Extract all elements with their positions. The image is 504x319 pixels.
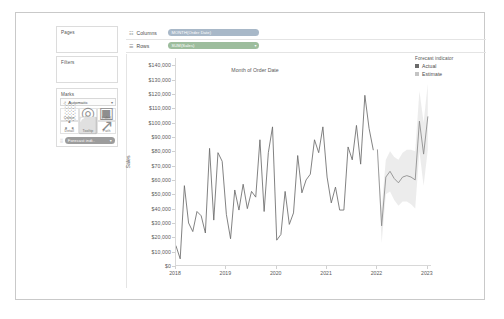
y-tick-label: $20,000 [152, 234, 171, 240]
marks-path-button[interactable]: ↗ Path [97, 121, 116, 134]
marks-detail-button[interactable]: ∴ Detail [60, 121, 79, 134]
x-tick-mark [276, 266, 277, 269]
plot-area[interactable] [175, 58, 431, 266]
legend-swatch-actual [415, 64, 419, 68]
colour-encoding-icon: ░ [60, 138, 63, 143]
legend-item-estimate[interactable]: Estimate [415, 71, 481, 77]
rows-pill-label: SUM(Sales) [171, 43, 194, 48]
worksheet-frame: Pages Filters Marks ↗ Automatic ▾ ░ Colo… [15, 12, 485, 300]
rows-shelf-label: Rows [136, 43, 168, 49]
colour-icon: ░ [64, 109, 75, 115]
y-tick-label: $100,000 [149, 120, 171, 126]
shelves-area: ☷ Columns MONTH(Order Date) ☰ Rows SUM(S… [126, 26, 486, 54]
columns-shelf-label: Columns [136, 30, 168, 36]
marks-tooltip-button[interactable]: ⬜ Tooltip [79, 121, 98, 134]
legend-item-actual[interactable]: Actual [415, 63, 481, 69]
columns-pill-label: MONTH(Order Date) [171, 30, 211, 35]
rows-pill-sum-sales[interactable]: SUM(Sales) ▾ [168, 42, 259, 49]
y-tick-label: $50,000 [152, 191, 171, 197]
top-cutoff-strip [0, 0, 504, 11]
columns-pill-month-order-date[interactable]: MONTH(Order Date) [168, 29, 259, 36]
legend-label-actual: Actual [422, 63, 437, 69]
x-tick-mark [427, 266, 428, 269]
marks-card-title: Marks [57, 89, 117, 97]
rows-pill-caret-icon[interactable]: ▾ [252, 43, 256, 48]
actual-line [176, 95, 373, 259]
x-tick-label: 2022 [371, 270, 383, 276]
filters-shelf-title: Filters [57, 57, 117, 65]
worksheet-sidebar: Pages Filters Marks ↗ Automatic ▾ ░ Colo… [56, 26, 118, 288]
path-icon: ↗ [100, 122, 113, 128]
marks-path-label: Path [103, 129, 111, 133]
marks-pill-label: Forecast indi.. [68, 138, 95, 143]
y-axis-title: Sales [125, 156, 131, 169]
x-tick-mark [225, 266, 226, 269]
y-tick-label: $130,000 [149, 77, 171, 83]
x-tick-mark [175, 266, 176, 269]
x-tick-mark [376, 266, 377, 269]
marks-colour-encoding-row: ░ Forecast indi.. ▾ [60, 136, 116, 144]
y-axis: $0$10,000$20,000$30,000$40,000$50,000$60… [127, 54, 175, 270]
detail-icon: ∴ [64, 122, 74, 128]
y-tick-label: $90,000 [152, 134, 171, 140]
y-tick-label: $40,000 [152, 206, 171, 212]
filters-shelf[interactable]: Filters [56, 56, 118, 83]
rows-icon: ☰ [129, 43, 133, 49]
x-tick-label: 2021 [320, 270, 332, 276]
y-tick-label: $0 [165, 263, 171, 269]
x-tick-label: 2020 [270, 270, 282, 276]
x-tick-label: 2018 [169, 270, 181, 276]
legend-title: Forecast indicator [415, 56, 481, 61]
line-chart-svg [176, 58, 432, 266]
pages-shelf-title: Pages [57, 27, 117, 35]
x-tick-label: 2023 [421, 270, 433, 276]
y-tick-label: $80,000 [152, 148, 171, 154]
marks-forecast-indicator-pill[interactable]: Forecast indi.. ▾ [65, 137, 115, 144]
forecast-confidence-band [377, 84, 427, 243]
pages-shelf[interactable]: Pages [56, 26, 118, 53]
x-tick-mark [326, 266, 327, 269]
y-tick-label: $110,000 [149, 105, 171, 111]
marks-button-grid: ░ Colour ◎ Size ▣ Label ∴ Detail [60, 108, 116, 134]
legend-swatch-estimate [415, 72, 419, 76]
rows-shelf[interactable]: ☰ Rows SUM(Sales) ▾ [126, 39, 486, 53]
y-tick-label: $10,000 [152, 249, 171, 255]
columns-shelf[interactable]: ☷ Columns MONTH(Order Date) [126, 26, 486, 40]
marks-tooltip-label: Tooltip [83, 129, 94, 133]
columns-icon: ☷ [129, 30, 133, 36]
y-tick-label: $140,000 [149, 62, 171, 68]
chart-pane: $0$10,000$20,000$30,000$40,000$50,000$60… [126, 54, 486, 288]
y-tick-label: $70,000 [152, 163, 171, 169]
y-tick-label: $30,000 [152, 220, 171, 226]
x-axis: 201820192020202120222023 [175, 266, 431, 288]
marks-pill-caret-icon[interactable]: ▾ [108, 138, 112, 143]
size-icon: ◎ [81, 109, 95, 115]
x-axis-title: Month of Order Date [231, 67, 278, 73]
y-tick-label: $60,000 [152, 177, 171, 183]
marks-card[interactable]: Marks ↗ Automatic ▾ ░ Colour ◎ Size [56, 88, 118, 147]
label-icon: ▣ [99, 109, 114, 115]
y-tick-label: $120,000 [149, 91, 171, 97]
marks-detail-label: Detail [65, 129, 75, 133]
tooltip-icon: ⬜ [78, 122, 98, 128]
forecast-indicator-legend: Forecast indicator Actual Estimate [415, 56, 481, 78]
x-tick-label: 2019 [220, 270, 232, 276]
legend-label-estimate: Estimate [422, 71, 442, 77]
